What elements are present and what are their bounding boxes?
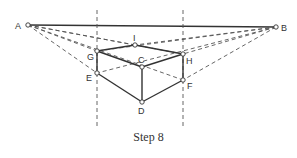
box-edges (97, 45, 183, 102)
label-b: B (281, 23, 287, 33)
point-i-marker (133, 43, 137, 47)
point-c-marker (140, 65, 144, 69)
point-b-marker (274, 25, 278, 29)
point-a-marker (26, 23, 30, 27)
horizon-line (28, 25, 276, 27)
projection-lines-b (97, 27, 276, 80)
point-e-marker (95, 71, 99, 75)
projection-lines-a (28, 25, 183, 80)
label-g: G (87, 52, 94, 62)
figure-caption: Step 8 (0, 130, 297, 145)
label-f: F (187, 81, 193, 91)
label-h: H (186, 56, 193, 66)
label-e: E (86, 73, 92, 83)
label-c: C (138, 55, 145, 65)
label-a: A (15, 21, 21, 31)
point-d-marker (140, 100, 144, 104)
point-f-marker (181, 78, 185, 82)
label-i: I (133, 33, 136, 43)
label-d: D (138, 106, 145, 116)
point-g-marker (95, 49, 99, 53)
point-h-marker (181, 52, 185, 56)
